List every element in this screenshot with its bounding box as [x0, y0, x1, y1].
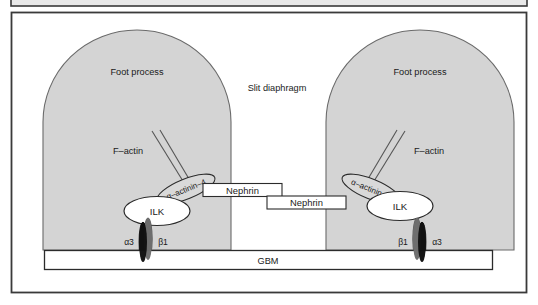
integrin-alpha3-left-label: α3 [124, 237, 134, 247]
integrin-beta1-left-label: β1 [158, 237, 168, 247]
gbm-bar: GBM [45, 251, 493, 270]
podocyte-slit-diaphragm-diagram: Foot process Foot process Slit diaphragm… [0, 0, 538, 305]
foot-process-right-label: Foot process [393, 67, 447, 77]
top-partial-panel-strip [11, 0, 527, 6]
f-actin-right-label: F–actin [414, 146, 444, 156]
ilk-left-label: ILK [150, 206, 165, 217]
integrin-beta1-right-label: β1 [398, 237, 408, 247]
nephrin-upper: Nephrin [203, 184, 282, 197]
ilk-left: ILK [124, 197, 190, 226]
ilk-right: ILK [367, 192, 433, 221]
gbm-label: GBM [258, 256, 279, 266]
nephrin-upper-label: Nephrin [226, 185, 259, 196]
slit-diaphragm-label: Slit diaphragm [248, 83, 307, 93]
foot-process-left-label: Foot process [110, 67, 164, 77]
nephrin-lower-label: Nephrin [290, 197, 323, 208]
f-actin-left-label: F–actin [113, 146, 143, 156]
nephrin-lower: Nephrin [267, 196, 346, 209]
integrin-alpha3-right-label: α3 [432, 237, 442, 247]
ilk-right-label: ILK [393, 201, 408, 212]
figure-canvas: Foot process Foot process Slit diaphragm… [0, 0, 538, 305]
